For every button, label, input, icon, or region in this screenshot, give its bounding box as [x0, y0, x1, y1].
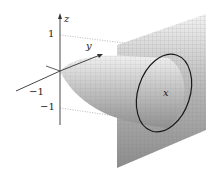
axis-stub	[46, 66, 60, 71]
y-tick-neg1: −1	[29, 86, 44, 97]
z-arrow-icon	[58, 13, 62, 19]
z-axis-label: z	[63, 13, 70, 24]
diagram-canvas: z y x 1 −1 −1	[0, 0, 218, 184]
x-axis-label: x	[163, 87, 169, 98]
z-tick-1: 1	[48, 28, 54, 39]
z-axis	[58, 13, 62, 125]
y-axis-label: y	[85, 40, 92, 51]
z-tick-neg1: −1	[40, 101, 55, 112]
